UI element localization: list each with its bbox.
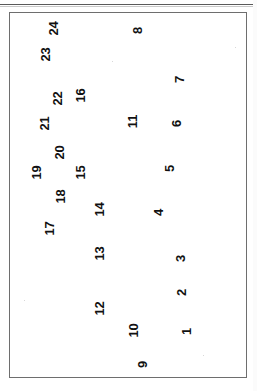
point-label: 23: [39, 47, 52, 61]
point-label: 14: [93, 202, 106, 216]
figure-canvas: 123456789101112131415161718192021222324: [0, 0, 257, 391]
point-label: 16: [74, 88, 87, 102]
point-label: 19: [30, 165, 43, 179]
point-label: 10: [127, 323, 140, 337]
point-label: 18: [54, 189, 67, 203]
point-label: 17: [43, 221, 56, 235]
scan-speckle: [24, 300, 25, 301]
scan-speckle: [235, 47, 236, 48]
point-label: 13: [93, 246, 106, 260]
point-label: 12: [93, 301, 106, 315]
point-label: 22: [51, 91, 64, 105]
point-label: 4: [152, 208, 165, 215]
point-label: 6: [170, 119, 183, 126]
point-label: 24: [47, 21, 60, 35]
point-label: 21: [38, 116, 51, 130]
point-label: 20: [53, 145, 66, 159]
point-label: 2: [175, 288, 188, 295]
scan-edge-shading: [253, 0, 257, 391]
point-label: 5: [163, 164, 176, 171]
scan-top-rule-secondary: [0, 6, 257, 7]
point-label: 9: [136, 360, 149, 367]
point-label: 1: [180, 327, 193, 334]
point-label: 7: [173, 75, 186, 82]
scan-speckle: [203, 355, 204, 356]
scan-speckle: [112, 61, 113, 62]
point-label: 15: [74, 165, 87, 179]
scan-top-rule: [0, 4, 257, 5]
point-label: 11: [126, 114, 139, 127]
point-label: 3: [174, 254, 187, 261]
point-label: 8: [131, 26, 144, 33]
